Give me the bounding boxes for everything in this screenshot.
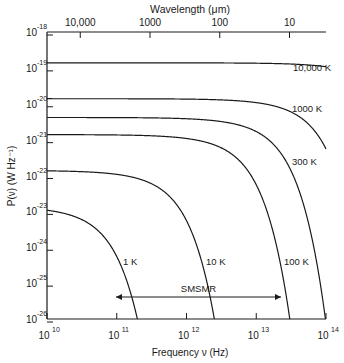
y-tick-exponent: -18 [37,23,47,30]
x-tick-exponent: 13 [261,326,269,333]
y-axis-title: P(ν) (W Hz⁻¹) [6,146,17,207]
x-tick-label: 10 [317,330,329,341]
top-tick-label: 1000 [139,17,162,28]
x-tick-label: 10 [248,330,260,341]
y-tick-exponent: -24 [37,238,47,245]
x-tick-exponent: 11 [122,326,129,333]
y-tick-exponent: -21 [37,131,47,138]
x-tick-exponent: 14 [331,326,339,333]
planck-power-chart: 1010101110121013101410-1810-1910-2010-21… [0,0,344,363]
x-tick-label: 10 [178,330,190,341]
smsmr-label: SMSMR [181,283,217,294]
top-tick-label: 100 [211,17,228,28]
y-tick-label: 10 [26,171,38,182]
top-tick-label: 10 [284,17,296,28]
top-tick-label: 10,000 [65,17,96,28]
y-tick-exponent: -20 [37,95,47,102]
x-tick-exponent: 12 [192,326,200,333]
y-tick-exponent: -22 [37,167,47,174]
y-tick-label: 10 [26,135,38,146]
top-axis-title: Wavelength (μm) [150,3,230,15]
y-tick-exponent: -19 [37,59,47,66]
curve-label: 10 K [206,256,226,267]
y-tick-label: 10 [26,99,38,110]
curve-label: 1 K [123,256,138,267]
x-tick-label: 10 [108,330,120,341]
y-tick-label: 10 [26,242,38,253]
curve-100k [47,135,290,319]
y-tick-label: 10 [26,278,38,289]
curve-label: 300 K [292,156,317,167]
curve-label: 10,000 K [293,62,332,73]
y-tick-label: 10 [26,314,38,325]
y-tick-exponent: -25 [37,274,47,281]
arrowhead-left-icon [116,294,122,300]
labels: 10,000 K1000 K300 K100 K10 K1 KSMSMR [116,62,332,300]
x-axis-title: Frequency ν (Hz) [152,347,229,358]
curve-label: 1000 K [292,103,323,114]
curves [47,63,326,319]
x-tick-exponent: 10 [52,326,60,333]
x-tick-label: 10 [38,330,50,341]
curve-label: 100 K [284,256,309,267]
y-tick-exponent: -26 [37,310,47,317]
arrowhead-right-icon [275,294,281,300]
y-tick-label: 10 [26,27,38,38]
y-tick-label: 10 [26,206,38,217]
y-tick-label: 10 [26,63,38,74]
curve-1000k [47,99,326,149]
y-tick-exponent: -23 [37,202,47,209]
curve-10000k [47,63,326,67]
